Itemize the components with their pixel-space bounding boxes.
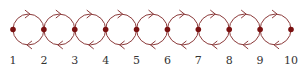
node-3: [72, 27, 78, 33]
node-label-1: 1: [10, 54, 17, 67]
node-label-5: 5: [133, 54, 140, 67]
node-4: [103, 27, 109, 33]
loop-3-4: [75, 10, 106, 49]
loop-1-2: [13, 10, 44, 49]
loop-5-6: [137, 10, 168, 49]
node-7: [196, 27, 202, 33]
node-label-2: 2: [40, 54, 47, 67]
loop-2-3: [44, 10, 75, 49]
loop-9-10: [260, 10, 291, 49]
loop-7-8: [198, 10, 229, 49]
loop-6-7: [167, 10, 198, 49]
loops-layer: [13, 10, 291, 49]
loop-circle: [75, 14, 106, 45]
labels-layer: 12345678910: [10, 54, 299, 67]
node-9: [257, 27, 263, 33]
loop-circle: [13, 14, 44, 45]
node-label-9: 9: [257, 54, 264, 67]
loop-circle: [106, 14, 137, 45]
loop-circle: [260, 14, 291, 45]
node-2: [41, 27, 47, 33]
loop-circle: [198, 14, 229, 45]
node-6: [165, 27, 171, 33]
node-label-8: 8: [226, 54, 233, 67]
loop-8-9: [229, 10, 260, 49]
loop-circle: [167, 14, 198, 45]
loop-chain-diagram: 12345678910: [0, 0, 308, 75]
node-10: [288, 27, 294, 33]
node-label-4: 4: [102, 54, 109, 67]
node-1: [10, 27, 16, 33]
node-label-3: 3: [71, 54, 78, 67]
node-label-7: 7: [195, 54, 202, 67]
loop-circle: [44, 14, 75, 45]
node-5: [134, 27, 140, 33]
node-8: [226, 27, 232, 33]
node-label-6: 6: [164, 54, 171, 67]
loop-circle: [137, 14, 168, 45]
node-label-10: 10: [284, 54, 298, 67]
loop-circle: [229, 14, 260, 45]
loop-4-5: [106, 10, 137, 49]
nodes-layer: [10, 27, 294, 33]
